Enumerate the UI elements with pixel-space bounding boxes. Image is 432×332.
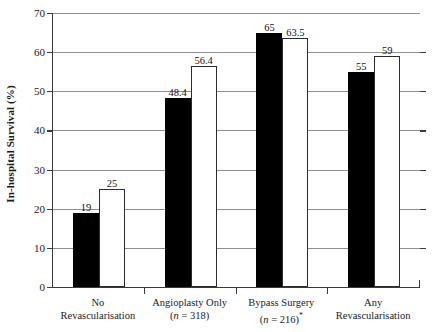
y-axis-tick-right <box>420 52 426 53</box>
bar-light: 25 <box>99 189 125 287</box>
y-axis-tick <box>47 248 53 249</box>
category-label-line1: No <box>52 296 144 309</box>
y-axis-title-text: In-hospital Survival (%) <box>4 85 16 202</box>
category-separator <box>327 287 328 294</box>
y-axis-tick <box>47 91 53 92</box>
bar-value-label: 65 <box>264 22 275 33</box>
right-axis-stub <box>419 280 420 287</box>
y-axis-tick-label: 70 <box>34 7 45 19</box>
y-axis-tick-right <box>420 170 426 171</box>
y-axis-tick <box>47 13 53 14</box>
bar-light: 59 <box>374 56 400 287</box>
bar-value-label: 25 <box>107 178 118 189</box>
bar-value-label: 59 <box>382 45 393 56</box>
y-axis-tick-right <box>420 91 426 92</box>
sample-size-symbol: n <box>174 310 179 321</box>
x-axis-category-label: AnyRevascularisation <box>327 296 419 322</box>
category-label-line1: Any <box>327 296 419 309</box>
y-axis-tick <box>47 130 53 131</box>
y-axis-tick-label: 10 <box>34 242 45 254</box>
bar-light: 63.5 <box>282 38 308 287</box>
plot-area: 010203040506070 192548.456.46563.55559 <box>52 13 420 287</box>
gridline <box>53 13 420 14</box>
category-label-line2: Revascularisation <box>52 309 144 322</box>
bar-dark: 48.4 <box>165 98 191 287</box>
x-axis-category-label: Bypass Surgery(n = 216)* <box>236 296 328 326</box>
bar-chart-figure: In-hospital Survival (%) 010203040506070… <box>0 0 432 332</box>
y-axis-tick-right <box>420 130 426 131</box>
bar-dark: 55 <box>348 72 374 287</box>
category-separator <box>144 287 145 294</box>
y-axis-tick-label: 40 <box>34 124 45 136</box>
x-axis-category-label: NoRevascularisation <box>52 296 144 322</box>
y-axis-tick <box>47 170 53 171</box>
bar-dark: 19 <box>73 213 99 287</box>
bar-dark: 65 <box>256 33 282 287</box>
bar-value-label: 55 <box>356 61 367 72</box>
y-axis-tick-label: 30 <box>34 164 45 176</box>
y-axis-tick-right <box>420 248 426 249</box>
y-axis-title: In-hospital Survival (%) <box>0 0 20 287</box>
y-axis-tick-label: 60 <box>34 46 45 58</box>
category-sample-size: (n = 318) <box>144 309 236 322</box>
y-axis-tick-right <box>420 209 426 210</box>
category-label-line2: Revascularisation <box>327 309 419 322</box>
bar-value-label: 63.5 <box>286 27 304 38</box>
category-label-line1: Angioplasty Only <box>144 296 236 309</box>
bar-value-label: 19 <box>81 202 92 213</box>
sample-size-symbol: n <box>263 314 268 325</box>
bar-value-label: 48.4 <box>168 87 186 98</box>
y-axis-tick <box>47 209 53 210</box>
category-label-line1: Bypass Surgery <box>236 296 328 309</box>
y-axis-tick-label: 0 <box>40 281 46 293</box>
bar-value-label: 56.4 <box>194 55 212 66</box>
gridline <box>53 52 420 53</box>
x-axis-category-label: Angioplasty Only(n = 318) <box>144 296 236 322</box>
y-axis-tick-label: 50 <box>34 85 45 97</box>
y-axis-tick <box>47 52 53 53</box>
footnote-marker: * <box>299 311 303 320</box>
bar-light: 56.4 <box>191 66 217 287</box>
y-axis-tick-label: 20 <box>34 203 45 215</box>
category-sample-size: (n = 216)* <box>236 309 328 326</box>
category-separator <box>236 287 237 294</box>
